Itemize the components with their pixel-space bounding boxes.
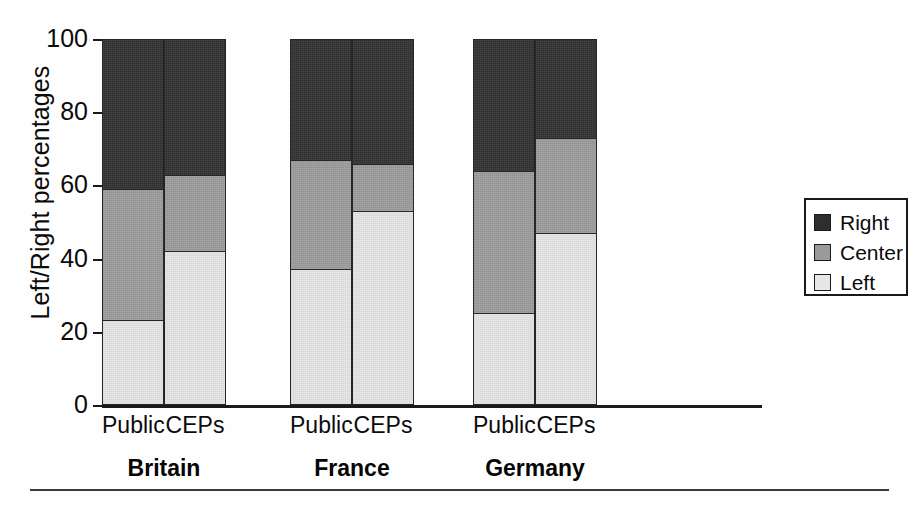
y-tick-mark <box>93 405 102 407</box>
segment-right-germany-ceps[interactable] <box>536 40 596 138</box>
y-tick-label: 80 <box>28 99 88 124</box>
legend-swatch-left-icon <box>814 274 831 291</box>
segment-center-france-ceps[interactable] <box>353 164 413 211</box>
legend-rows: RightCenterLeft <box>814 208 906 296</box>
segment-right-france-public[interactable] <box>291 40 351 160</box>
x-sub-label-france-ceps: CEPs <box>352 412 414 439</box>
y-tick-label: 40 <box>28 246 88 271</box>
legend-item-left[interactable]: Left <box>814 268 906 296</box>
x-sub-label-germany-ceps: CEPs <box>535 412 597 439</box>
segment-left-germany-ceps[interactable] <box>536 233 596 404</box>
y-tick-mark <box>93 332 102 334</box>
legend-label-right: Right <box>840 212 889 233</box>
y-tick-label: 60 <box>28 172 88 197</box>
segment-right-germany-public[interactable] <box>474 40 534 171</box>
legend-item-center[interactable]: Center <box>814 238 906 266</box>
legend-swatch-center-icon <box>814 244 831 261</box>
y-tick-mark <box>93 185 102 187</box>
segment-right-britain-public[interactable] <box>103 40 163 189</box>
segment-left-france-ceps[interactable] <box>353 211 413 404</box>
segment-center-britain-ceps[interactable] <box>165 175 225 251</box>
segment-center-france-public[interactable] <box>291 160 351 269</box>
legend-swatch-right-icon <box>814 214 831 231</box>
segment-left-france-public[interactable] <box>291 269 351 404</box>
segment-left-britain-public[interactable] <box>103 320 163 404</box>
legend-box: RightCenterLeft <box>804 198 908 296</box>
y-tick-mark <box>93 39 102 41</box>
segment-right-britain-ceps[interactable] <box>165 40 225 175</box>
plot-area: 100806040200 <box>102 39 762 405</box>
segment-left-britain-ceps[interactable] <box>165 251 225 404</box>
x-sub-label-britain-ceps: CEPs <box>164 412 226 439</box>
y-tick-label: 20 <box>28 319 88 344</box>
segment-right-france-ceps[interactable] <box>353 40 413 164</box>
bar-britain-ceps[interactable] <box>164 39 226 405</box>
x-sub-label-britain-public: Public <box>102 412 164 439</box>
legend-item-right[interactable]: Right <box>814 208 906 236</box>
x-group-label-britain: Britain <box>94 455 234 482</box>
x-sub-label-germany-public: Public <box>473 412 535 439</box>
segment-center-germany-ceps[interactable] <box>536 138 596 233</box>
bar-france-public[interactable] <box>290 39 352 405</box>
stacked-bar-chart-figure: Left/Right percentages 100806040200 Publ… <box>0 0 919 507</box>
segment-left-germany-public[interactable] <box>474 313 534 404</box>
y-tick-label: 0 <box>28 392 88 417</box>
segment-center-britain-public[interactable] <box>103 189 163 320</box>
y-tick-label: 100 <box>28 26 88 51</box>
x-group-label-france: France <box>282 455 422 482</box>
bar-britain-public[interactable] <box>102 39 164 405</box>
x-sub-label-france-public: Public <box>290 412 352 439</box>
bar-france-ceps[interactable] <box>352 39 414 405</box>
segment-center-germany-public[interactable] <box>474 171 534 313</box>
bar-germany-ceps[interactable] <box>535 39 597 405</box>
legend-label-center: Center <box>840 242 903 263</box>
footer-divider-rule <box>30 489 889 491</box>
y-tick-mark <box>93 112 102 114</box>
bar-germany-public[interactable] <box>473 39 535 405</box>
legend-label-left: Left <box>840 272 875 293</box>
y-tick-mark <box>93 259 102 261</box>
x-group-label-germany: Germany <box>465 455 605 482</box>
x-axis-line <box>102 405 762 408</box>
